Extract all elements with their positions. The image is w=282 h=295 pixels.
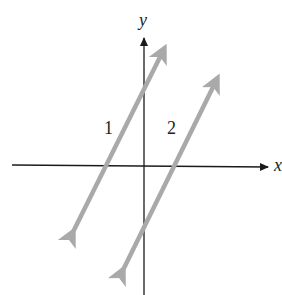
line-1 <box>73 49 164 232</box>
y-axis-label: y <box>139 10 147 31</box>
line-1-label: 1 <box>104 118 113 139</box>
line-2-label: 2 <box>167 118 176 139</box>
coordinate-diagram <box>0 0 282 295</box>
x-axis-label: x <box>274 155 282 176</box>
x-axis <box>12 165 268 167</box>
